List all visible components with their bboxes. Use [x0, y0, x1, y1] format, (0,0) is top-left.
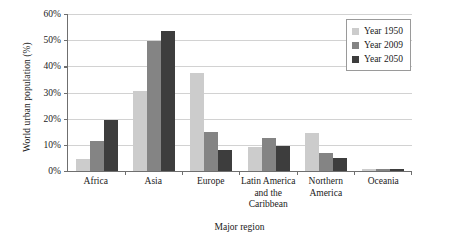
x-axis-tick-label: Latin America and the Caribbean [240, 176, 298, 211]
legend-label: Year 2050 [364, 54, 403, 64]
legend-label: Year 2009 [364, 40, 403, 50]
bar [218, 150, 232, 171]
legend-swatch [352, 56, 359, 63]
y-axis-tick-label: 30% [44, 88, 61, 98]
y-axis-tick-label: 0% [48, 166, 61, 176]
x-axis-title: Major region [67, 222, 412, 232]
x-axis-tick [239, 171, 240, 175]
legend-item: Year 2050 [352, 52, 403, 66]
bar [204, 132, 218, 171]
legend-label: Year 1950 [364, 26, 403, 36]
legend: Year 1950Year 2009Year 2050 [346, 19, 411, 71]
x-axis-tick-labels: AfricaAsiaEuropeLatin America and the Ca… [67, 176, 412, 211]
bar [305, 133, 319, 171]
legend-item: Year 1950 [352, 24, 403, 38]
bar-group [68, 14, 125, 171]
bar-group [125, 14, 182, 171]
bar [262, 138, 276, 171]
y-axis-tick-label: 20% [44, 114, 61, 124]
x-axis-tick-label: Africa [67, 176, 125, 211]
x-axis-tick-label: Europe [182, 176, 240, 211]
x-axis-tick [182, 171, 183, 175]
bar [76, 159, 90, 171]
x-axis-tick [297, 171, 298, 175]
bar [248, 147, 262, 171]
bar [90, 141, 104, 171]
x-axis-tick-label: Asia [125, 176, 183, 211]
x-axis-tick [354, 171, 355, 175]
x-axis-tick-label: Northern America [297, 176, 355, 211]
x-axis-tick [125, 171, 126, 175]
x-axis-tick-label: Oceania [355, 176, 413, 211]
legend-item: Year 2009 [352, 38, 403, 52]
bar [104, 120, 118, 171]
legend-swatch [352, 28, 359, 35]
y-axis-tick [64, 171, 68, 172]
bar [333, 158, 347, 171]
bar [390, 169, 404, 171]
x-axis-tick [411, 171, 412, 175]
bar [376, 169, 390, 171]
y-axis-tick-label: 10% [44, 140, 61, 150]
bar [190, 73, 204, 171]
bar [161, 31, 175, 171]
bar [319, 153, 333, 171]
bar [276, 146, 290, 171]
bar [147, 41, 161, 171]
bar [133, 91, 147, 171]
y-axis-title: World urban population (%) [22, 7, 32, 187]
legend-swatch [352, 42, 359, 49]
bar-group [240, 14, 297, 171]
y-axis-tick-label: 50% [44, 35, 61, 45]
y-axis-tick-label: 60% [44, 9, 61, 19]
bar-chart: World urban population (%) 0%10%20%30%40… [0, 0, 455, 247]
bar [362, 169, 376, 171]
bar-group [183, 14, 240, 171]
y-axis-tick-label: 40% [44, 61, 61, 71]
